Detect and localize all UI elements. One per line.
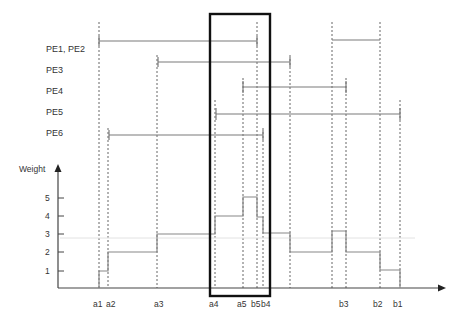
interval-pe5 [216,108,400,120]
highlight-box [210,14,270,296]
x-label-b4: b4 [261,299,271,309]
interval-label-pe3: PE3 [46,65,63,75]
interval-label-pe1-pe2: PE1, PE2 [46,44,85,54]
x-label-b2: b2 [373,299,383,309]
x-label-a1: a1 [93,299,103,309]
interval-pe1-pe2 [99,36,380,46]
interval-label-pe6: PE6 [46,128,63,138]
x-label-a4: a4 [209,299,219,309]
interval-bars [99,36,400,140]
x-label-b3: b3 [339,299,349,309]
x-label-b5: b5 [251,299,261,309]
weight-step-line [99,197,400,288]
y-ticks [58,198,64,271]
y-tick-5: 5 [45,193,50,203]
x-label-a2: a2 [106,299,116,309]
interval-label-pe5: PE5 [46,107,63,117]
y-tick-3: 3 [45,229,50,239]
interval-pe6 [109,130,263,140]
y-tick-1: 1 [45,266,50,276]
x-label-a3: a3 [154,299,164,309]
x-axis-arrow-icon [438,285,446,292]
y-axis-label: Weight [19,164,46,174]
interval-pe4 [243,81,346,93]
x-label-b1: b1 [393,299,403,309]
y-tick-4: 4 [45,211,50,221]
x-label-a5: a5 [237,299,247,309]
y-axis-arrow-icon [55,164,62,172]
interval-label-pe4: PE4 [46,86,63,96]
interval-diagram: PE1, PE2 PE3 PE4 PE5 PE6 Weight 1 2 3 4 … [0,0,464,321]
y-tick-2: 2 [45,247,50,257]
